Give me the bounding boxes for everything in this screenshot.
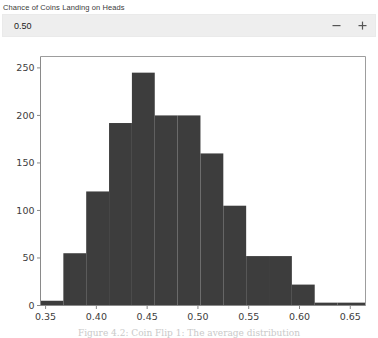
figure-caption: Figure 4.2: Coin Flip 1: The average dis… — [0, 328, 378, 338]
plus-icon — [357, 20, 368, 31]
x-tick-label: 0.60 — [289, 311, 310, 322]
y-tick-label: 100 — [16, 205, 34, 216]
x-tick-label: 0.65 — [340, 311, 361, 322]
chart-canvas: 0501001502002500.350.400.450.500.550.600… — [0, 42, 378, 338]
number-input-row[interactable]: 0.50 — [2, 14, 376, 37]
histogram-bar — [292, 285, 315, 306]
y-tick-label: 250 — [16, 62, 34, 73]
x-tick-label: 0.40 — [86, 311, 107, 322]
number-stepper-widget: Chance of Coins Landing on Heads 0.50 — [0, 0, 378, 37]
y-tick-label: 50 — [22, 252, 34, 263]
increment-button[interactable] — [349, 14, 375, 37]
histogram-bar — [132, 73, 155, 306]
y-tick-label: 150 — [16, 157, 34, 168]
histogram-bar — [86, 191, 109, 305]
histogram-bar — [109, 123, 132, 305]
y-tick-label: 200 — [16, 110, 34, 121]
histogram-bar — [63, 253, 86, 305]
histogram-bar — [178, 115, 201, 305]
decrement-button[interactable] — [323, 14, 349, 37]
histogram-bar — [200, 153, 223, 305]
x-tick-label: 0.50 — [187, 311, 208, 322]
histogram-bar — [155, 115, 178, 305]
histogram-bar — [223, 206, 246, 306]
y-tick-label: 0 — [28, 300, 34, 311]
histogram-chart: 0501001502002500.350.400.450.500.550.600… — [0, 42, 378, 338]
histogram-bar — [269, 256, 292, 305]
widget-label: Chance of Coins Landing on Heads — [0, 0, 378, 12]
x-tick-label: 0.35 — [35, 311, 56, 322]
x-tick-label: 0.55 — [238, 311, 259, 322]
histogram-bar — [41, 301, 64, 306]
histogram-bar — [246, 256, 269, 305]
chance-value-input[interactable]: 0.50 — [3, 21, 323, 31]
x-tick-label: 0.45 — [137, 311, 158, 322]
minus-icon — [331, 20, 342, 31]
